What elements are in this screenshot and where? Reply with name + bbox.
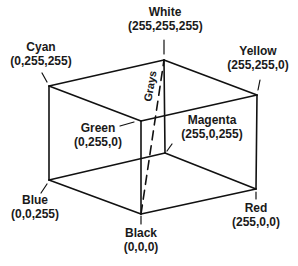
label-black: Black (0,0,0) [116,226,166,254]
leader-cyan [42,73,47,82]
label-green-name: Green [68,121,128,135]
edge-cyan-green [49,86,141,121]
label-blue-rgb: (0,0,255) [6,207,64,221]
label-magenta: Magenta (255,0,255) [172,113,252,141]
label-blue-name: Blue [6,193,64,207]
label-blue: Blue (0,0,255) [6,193,64,221]
label-magenta-name: Magenta [172,113,252,127]
label-cyan-name: Cyan [5,40,77,54]
label-red-name: Red [226,201,286,215]
leader-blue [41,184,47,193]
edge-white-magenta [164,60,165,153]
label-white-rgb: (255,255,255) [128,19,202,33]
label-yellow: Yellow (255,255,0) [222,44,294,72]
leader-magenta [167,144,172,151]
label-red-rgb: (255,0,0) [226,215,286,229]
label-green-rgb: (0,255,0) [68,135,128,149]
label-cyan-rgb: (0,255,255) [5,54,77,68]
label-green: Green (0,255,0) [68,121,128,149]
label-magenta-rgb: (255,0,255) [172,127,252,141]
label-white-name: White [128,5,202,19]
edge-yellow-red [256,95,257,189]
leader-yellow [258,80,260,90]
label-white: White (255,255,255) [128,5,202,33]
label-black-rgb: (0,0,0) [116,240,166,254]
label-black-name: Black [116,226,166,240]
label-red: Red (255,0,0) [226,201,286,229]
label-yellow-rgb: (255,255,0) [222,58,294,72]
label-yellow-name: Yellow [222,44,294,58]
label-cyan: Cyan (0,255,255) [5,40,77,68]
rgb-color-cube-diagram: White (255,255,255) Cyan (0,255,255) Yel… [0,0,298,266]
edge-magenta-red [165,153,256,189]
